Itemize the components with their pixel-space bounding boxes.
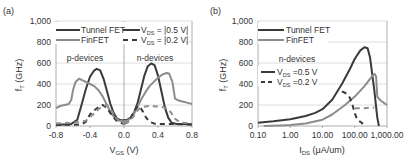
y-tick-label: 1,000 bbox=[30, 16, 52, 26]
legend-label-tunnel-fet: Tunnel FET bbox=[286, 25, 330, 35]
annotation-n-devices: n-devices bbox=[137, 53, 173, 63]
panel-b-legend: Tunnel FET FinFET n-devices VDS =0.5 V V… bbox=[258, 22, 330, 88]
panel-b-x-ticks: 0.101.0010.00100.001,000.00 bbox=[250, 126, 404, 140]
panel-b-y-ticks: 02004006008001,000 bbox=[232, 16, 254, 131]
x-tick-label: 10.00 bbox=[312, 130, 334, 140]
chart-figure: (a) 02004006008001,000 -0.8-0.40.00.40.8… bbox=[0, 0, 413, 167]
x-tick-label: 0.10 bbox=[250, 130, 267, 140]
y-tick-label: 1,000 bbox=[232, 16, 254, 26]
series-line-finfet-v-ds-0-2v-n bbox=[124, 106, 192, 123]
x-tick-label: 0.8 bbox=[186, 130, 198, 140]
panel-b: (b) 02004006008001,000 0.101.0010.00100.… bbox=[210, 6, 404, 156]
panel-a-label: (a) bbox=[3, 6, 14, 16]
x-tick-label: -0.4 bbox=[83, 130, 98, 140]
panel-b-y-axis-label: fT (GHz) bbox=[218, 59, 229, 92]
panel-a-legend: Tunnel FET FinFET VDS = |0.5 V| VDS = |0… bbox=[55, 22, 188, 46]
y-tick-label: 800 bbox=[37, 37, 51, 47]
y-tick-label: 200 bbox=[239, 100, 253, 110]
panel-a-y-ticks: 02004006008001,000 bbox=[30, 16, 52, 131]
panel-b-x-axis-label: IDS (μA/um) bbox=[299, 145, 345, 156]
y-tick-label: 400 bbox=[239, 79, 253, 89]
series-line-finfet-v-ds-0-2v bbox=[355, 108, 374, 109]
annotation-p-devices: p-devices bbox=[67, 53, 103, 63]
legend-label-finfet: FinFET bbox=[81, 35, 109, 45]
x-tick-label: -0.8 bbox=[49, 130, 64, 140]
panel-a-x-axis-label: VGS (V) bbox=[109, 145, 138, 156]
y-tick-label: 200 bbox=[37, 100, 51, 110]
panel-a: (a) 02004006008001,000 -0.8-0.40.00.40.8… bbox=[3, 6, 198, 156]
series-line-tunnel-fet-v-ds-0-2v bbox=[342, 91, 363, 124]
panel-a-x-ticks: -0.8-0.40.00.40.8 bbox=[49, 126, 199, 140]
annotation-n-devices: n-devices bbox=[279, 54, 315, 64]
x-tick-label: 1.00 bbox=[282, 130, 299, 140]
panel-a-y-axis-label: fT (GHz) bbox=[14, 59, 25, 92]
y-tick-label: 800 bbox=[239, 37, 253, 47]
x-tick-label: 1,000.00 bbox=[370, 130, 403, 140]
legend-label-finfet: FinFET bbox=[286, 35, 314, 45]
y-tick-label: 600 bbox=[239, 58, 253, 68]
legend-label-tunnel-fet: Tunnel FET bbox=[81, 25, 125, 35]
x-tick-label: 0.0 bbox=[118, 130, 130, 140]
x-tick-label: 0.4 bbox=[152, 130, 164, 140]
y-tick-label: 600 bbox=[37, 58, 51, 68]
x-tick-label: 100.00 bbox=[342, 130, 368, 140]
panel-b-label: (b) bbox=[210, 6, 221, 16]
y-tick-label: 400 bbox=[37, 79, 51, 89]
